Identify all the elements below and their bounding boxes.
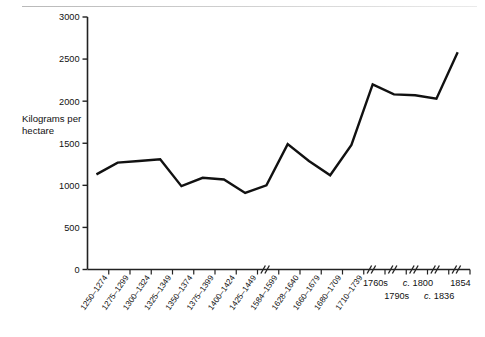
x-axis-flat-label: c. 1836 xyxy=(424,291,454,301)
y-axis-tick-label: 1000 xyxy=(59,181,79,191)
y-axis-labels: 050010001500200025003000 xyxy=(59,12,79,275)
y-axis-title-line2: hectare xyxy=(22,125,54,136)
y-axis-tick-label: 3000 xyxy=(59,12,79,22)
x-axis-flat-label: 1854 xyxy=(450,278,470,288)
x-axis-flat-label: 1760s xyxy=(363,278,388,288)
y-axis-tick-label: 1500 xyxy=(59,139,79,149)
data-series-line xyxy=(96,52,457,193)
x-axis-rotated-labels: 1250–12741275–12991300–13241325–13491350… xyxy=(79,273,365,312)
x-axis-flat-labels: 1760s1790sc. 1800c. 18361854 xyxy=(363,278,471,301)
x-axis-flat-label: 1790s xyxy=(384,291,409,301)
y-axis-title-line1: Kilograms per xyxy=(22,113,82,124)
chart-figure: 050010001500200025003000 1250–12741275–1… xyxy=(0,0,485,337)
x-axis-flat-label: c. 1800 xyxy=(403,278,433,288)
y-axis-tick-label: 2500 xyxy=(59,54,79,64)
y-axis-tick-label: 500 xyxy=(64,223,79,233)
y-axis-tick-label: 0 xyxy=(74,265,79,275)
y-axis-tick-label: 2000 xyxy=(59,97,79,107)
line-chart-svg: 050010001500200025003000 1250–12741275–1… xyxy=(0,0,485,337)
